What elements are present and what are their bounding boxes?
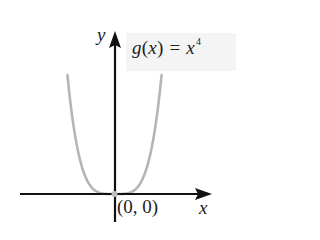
x-axis-label: x bbox=[199, 197, 207, 219]
func-name: g bbox=[132, 37, 142, 58]
func-equals: = bbox=[163, 37, 186, 58]
func-base: x bbox=[186, 37, 195, 58]
func-variable: x bbox=[148, 37, 157, 58]
origin-label: (0, 0) bbox=[117, 196, 158, 218]
function-label: g(x)=x4 bbox=[132, 37, 201, 59]
func-exponent: 4 bbox=[196, 36, 201, 47]
y-axis-label: y bbox=[97, 24, 105, 46]
